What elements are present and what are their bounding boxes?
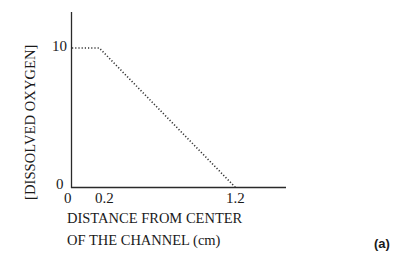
x-tick-0-2: 0.2	[95, 190, 114, 207]
y-tick-0: 0	[56, 176, 64, 193]
x-axis-label: DISTANCE FROM CENTER OF THE CHANNEL (cm)	[67, 207, 242, 251]
x-tick-0: 0	[64, 190, 72, 207]
x-axis-label-line-2: OF THE CHANNEL (cm)	[67, 229, 242, 251]
panel-label: (a)	[374, 236, 390, 251]
y-tick-10: 10	[52, 38, 67, 55]
oxygen-series-line	[72, 48, 236, 188]
y-axis-label: [DISSOLVED OXYGEN]	[22, 44, 39, 200]
x-axis-label-line-1: DISTANCE FROM CENTER	[67, 207, 242, 229]
x-tick-1-2: 1.2	[226, 190, 245, 207]
